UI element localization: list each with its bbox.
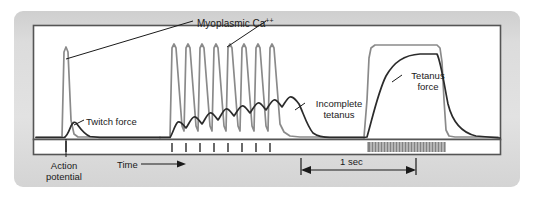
label-scale-bar: 1 sec	[340, 156, 363, 167]
label-action-potential: Action potential	[36, 160, 92, 182]
label-time-axis: Time	[117, 159, 138, 170]
label-incomplete-tetanus: Incomplete tetanus	[307, 98, 371, 120]
superscript-plus-plus: ++	[265, 17, 273, 24]
stimulus-strip	[34, 140, 501, 155]
label-tetanus-force: Tetanus force	[404, 70, 452, 92]
label-twitch-force: Twitch force	[86, 116, 137, 127]
time-arrow	[141, 161, 186, 168]
label-myoplasmic-ca: Myoplasmic Ca++	[197, 15, 274, 29]
figure-container: Myoplasmic Ca++ Twitch force Action pote…	[0, 0, 534, 197]
